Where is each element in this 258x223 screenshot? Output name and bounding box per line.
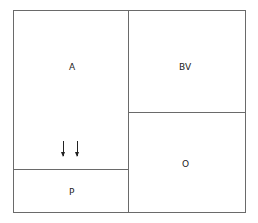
down-arrow-icon <box>77 141 78 156</box>
down-arrow-icon <box>63 141 64 156</box>
region-p-label: P <box>69 187 74 197</box>
diagram-container: A P BV O <box>0 0 258 223</box>
region-p: P <box>13 169 129 213</box>
region-o-label: O <box>182 159 189 169</box>
region-a-label: A <box>69 62 75 72</box>
region-bv-label: BV <box>179 62 191 72</box>
region-o: O <box>128 112 246 213</box>
region-a: A <box>13 10 129 170</box>
region-bv: BV <box>128 10 246 113</box>
